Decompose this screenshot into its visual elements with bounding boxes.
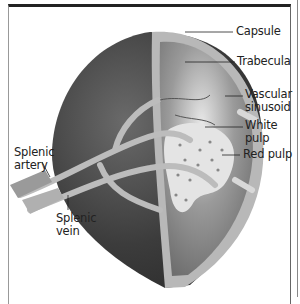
label-trabecula: Trabecula (237, 55, 291, 68)
label-capsule: Capsule (236, 25, 281, 38)
label-vascular-sinusoid-line2: sinusoid (245, 101, 291, 114)
label-splenic-artery-line2: artery (14, 159, 48, 172)
label-white-pulp-line2: pulp (245, 132, 269, 145)
label-red-pulp: Red pulp (243, 148, 292, 161)
label-splenic-vein-line2: vein (56, 225, 80, 238)
